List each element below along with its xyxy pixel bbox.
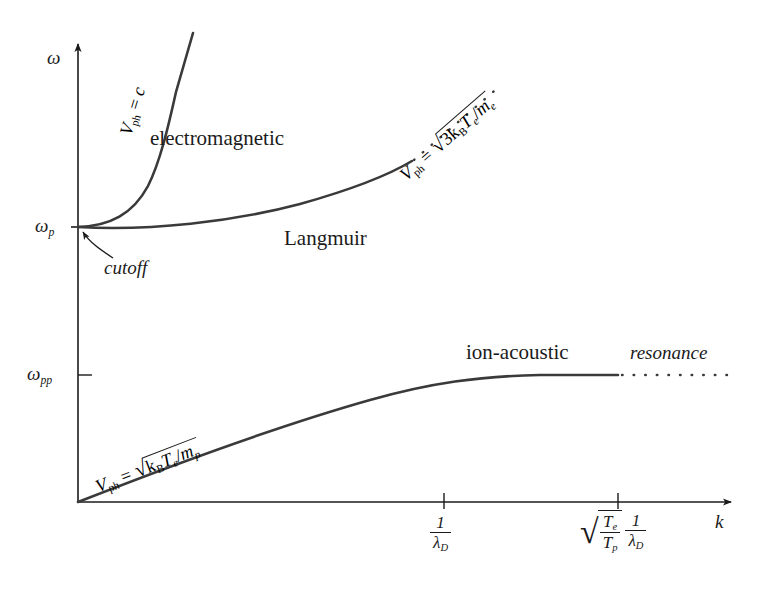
temp-ratio-denominator: Tp [600, 532, 621, 553]
curve-ion-acoustic [78, 375, 618, 502]
dispersion-diagram: ω k ωp ωpp 1 λD √ Te Tp 1 λD [0, 0, 774, 599]
radical-sign: √ [580, 518, 599, 545]
x-tick-label-inverse-debye: 1 λD [430, 514, 451, 553]
y-tick-label-omega-p: ωp [35, 216, 54, 239]
debye-denominator: λD [625, 530, 646, 551]
equals-sign: = [123, 96, 145, 112]
equals-sign: = [117, 464, 134, 486]
resonance-label: resonance [630, 343, 707, 362]
plot-canvas [0, 0, 774, 599]
temp-ratio-numerator: Te [600, 513, 621, 532]
tick-numerator: 1 [430, 514, 451, 532]
x-axis-label: k [715, 512, 723, 531]
curve-langmuir [78, 161, 412, 228]
curve-label-electromagnetic: electromagnetic [150, 128, 284, 149]
curve-label-langmuir: Langmuir [284, 228, 367, 249]
y-tick-label-omega-pp: ωpp [27, 364, 52, 387]
curve-label-ion-acoustic: ion-acoustic [466, 342, 569, 363]
debye-numerator: 1 [625, 512, 646, 530]
cutoff-arrow [83, 232, 113, 258]
cutoff-label: cutoff [104, 258, 147, 277]
tick-denominator: λD [430, 532, 451, 553]
sqrt-temperature-ratio: √ Te Tp 1 λD [580, 510, 646, 554]
y-axis-label: ω [47, 48, 60, 67]
x-tick-label-sqrt-temp-ratio: √ Te Tp 1 λD [580, 510, 646, 554]
